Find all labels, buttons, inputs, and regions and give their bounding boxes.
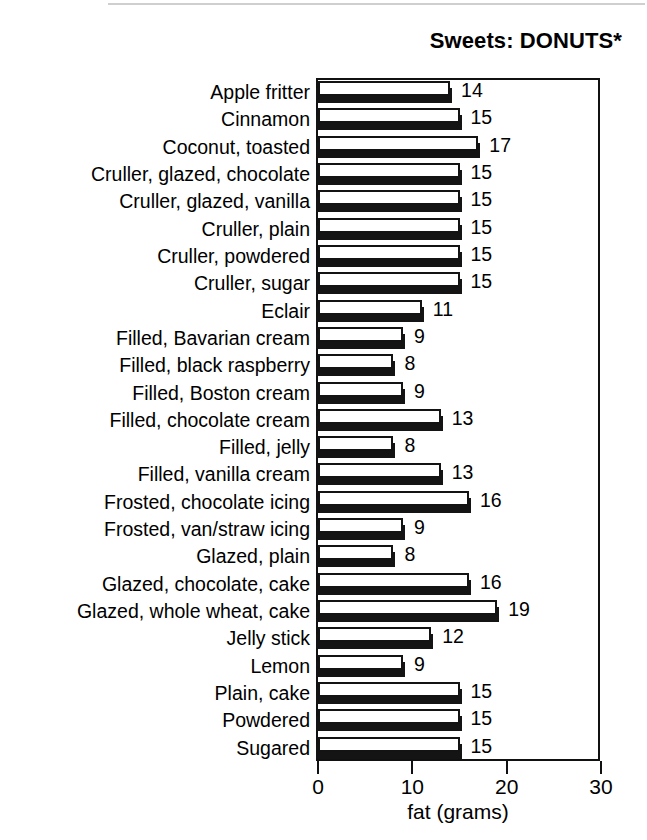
bar-value-label: 12 <box>442 625 464 647</box>
bar-value-label: 11 <box>433 298 453 320</box>
x-axis-tick-label: 0 <box>312 775 324 799</box>
bar-row: Glazed, chocolate, cake16 <box>0 570 647 598</box>
category-label: Glazed, plain <box>196 544 310 568</box>
bar-face <box>318 737 460 752</box>
category-label: Cinnamon <box>221 107 310 131</box>
bar <box>318 81 454 103</box>
bar-row: Jelly stick12 <box>0 624 647 652</box>
bar-face <box>318 327 403 342</box>
bar-value-label: 13 <box>452 407 474 429</box>
bar-face <box>318 655 403 670</box>
x-axis-tick-label: 10 <box>401 775 424 799</box>
category-label: Eclair <box>261 299 310 323</box>
x-axis-tick <box>411 761 413 774</box>
bar <box>318 300 426 322</box>
chart-title: Sweets: DONUTS* <box>0 28 622 54</box>
bar-value-label: 15 <box>471 216 493 238</box>
category-label: Frosted, chocolate icing <box>104 490 310 514</box>
bar <box>318 382 407 404</box>
bar-row: Glazed, plain8 <box>0 542 647 570</box>
category-label: Frosted, van/straw icing <box>104 517 310 541</box>
bar-face <box>318 682 460 697</box>
bar <box>318 655 407 677</box>
bar-row: Filled, chocolate cream13 <box>0 406 647 434</box>
bar-face <box>318 190 460 205</box>
bar-row: Sugared15 <box>0 734 647 762</box>
bar <box>318 463 445 485</box>
bar-value-label: 15 <box>471 106 493 128</box>
x-axis-tick-label: 20 <box>495 775 518 799</box>
bar-value-label: 9 <box>414 325 425 347</box>
category-label: Lemon <box>250 654 310 678</box>
bar-row: Filled, Boston cream9 <box>0 379 647 407</box>
bar-face <box>318 573 469 588</box>
bar-row: Cruller, glazed, vanilla15 <box>0 187 647 215</box>
bar-face <box>318 163 460 178</box>
bar-face <box>318 245 460 260</box>
bar-value-label: 14 <box>461 79 483 101</box>
bar <box>318 218 464 240</box>
category-label: Cruller, glazed, chocolate <box>91 162 310 186</box>
bar <box>318 409 445 431</box>
bar-row: Cruller, powdered15 <box>0 242 647 270</box>
bar-face <box>318 382 403 397</box>
bar <box>318 245 464 267</box>
bar <box>318 327 407 349</box>
bar-face <box>318 218 460 233</box>
category-label: Cruller, glazed, vanilla <box>119 189 310 213</box>
bar <box>318 272 464 294</box>
bar <box>318 600 501 622</box>
category-label: Cruller, sugar <box>194 271 310 295</box>
bar-value-label: 8 <box>404 543 415 565</box>
bar-value-label: 15 <box>471 680 493 702</box>
x-axis-title: fat (grams) <box>316 800 600 824</box>
bar-value-label: 15 <box>471 161 493 183</box>
bar <box>318 163 464 185</box>
category-label: Filled, Bavarian cream <box>116 326 310 350</box>
category-label: Coconut, toasted <box>163 135 310 159</box>
bar-row: Cruller, plain15 <box>0 215 647 243</box>
bar-face <box>318 463 441 478</box>
bar-row: Glazed, whole wheat, cake19 <box>0 597 647 625</box>
category-label: Powdered <box>222 708 310 732</box>
bar-face <box>318 81 450 96</box>
bar-row: Filled, jelly8 <box>0 433 647 461</box>
category-label: Glazed, whole wheat, cake <box>77 599 310 623</box>
bar-row: Frosted, van/straw icing9 <box>0 515 647 543</box>
bar-value-label: 19 <box>508 598 530 620</box>
bar <box>318 518 407 540</box>
x-axis-tick <box>506 761 508 774</box>
bar-value-label: 9 <box>414 516 425 538</box>
bar <box>318 627 435 649</box>
bar-face <box>318 600 497 615</box>
bar-face <box>318 627 431 642</box>
category-label: Filled, black raspberry <box>119 353 310 377</box>
category-label: Glazed, chocolate, cake <box>102 572 310 596</box>
bar-row: Plain, cake15 <box>0 679 647 707</box>
x-axis-tick <box>600 761 602 774</box>
bar-face <box>318 436 393 451</box>
bar-value-label: 17 <box>489 134 511 156</box>
bar-row: Filled, Bavarian cream9 <box>0 324 647 352</box>
bar-face <box>318 491 469 506</box>
bar-value-label: 8 <box>404 352 415 374</box>
bar-row: Frosted, chocolate icing16 <box>0 488 647 516</box>
bar <box>318 190 464 212</box>
x-axis-tick-label: 30 <box>589 775 612 799</box>
bar-row: Lemon9 <box>0 652 647 680</box>
bar-face <box>318 300 422 315</box>
bar-face <box>318 354 393 369</box>
bar-face <box>318 272 460 287</box>
category-label: Filled, jelly <box>219 435 310 459</box>
bar-row: Powdered15 <box>0 706 647 734</box>
chart-page: Sweets: DONUTS* Apple fritter14Cinnamon1… <box>0 0 647 840</box>
bar-value-label: 13 <box>452 461 474 483</box>
bar <box>318 682 464 704</box>
bar-face <box>318 136 478 151</box>
bar <box>318 436 397 458</box>
bar-value-label: 8 <box>404 434 415 456</box>
bar-value-label: 15 <box>471 270 493 292</box>
bar-value-label: 15 <box>471 707 493 729</box>
bar <box>318 545 397 567</box>
bar-row: Eclair11 <box>0 297 647 325</box>
